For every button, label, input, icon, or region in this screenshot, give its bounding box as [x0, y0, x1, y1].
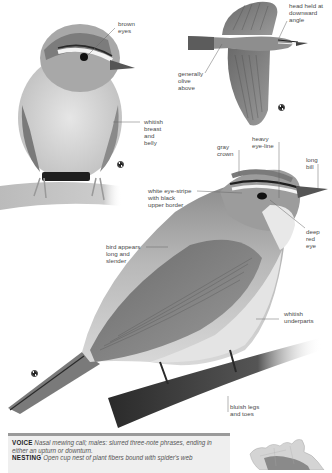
range-map [246, 436, 326, 470]
voice-heading: VOICE [12, 439, 33, 446]
flight-symbol-icon [278, 104, 285, 111]
nesting-text: Open cup nest of plant fibers bound with… [43, 454, 192, 461]
label-head-held-at-downward-angle: head held at downward angle [289, 2, 323, 23]
label-whitish-breast-and-belly: whitish breast and belly [144, 118, 163, 146]
label-deep-red-eye: deep red eye [306, 228, 320, 249]
label-generally-olive-above: generally olive above [178, 70, 203, 91]
adult-symbol-icon [31, 370, 38, 377]
label-bluish-legs-and-toes: bluish legs and toes [230, 403, 259, 417]
label-long-bill: long bill [306, 156, 318, 170]
voice-text: Nasal mewing call; males: slurred three-… [12, 439, 212, 454]
label-whitish-underparts: whitish underparts [284, 310, 314, 324]
label-white-eye-stripe: white eye-stripe with black upper border [148, 187, 191, 208]
nesting-entry: NESTING Open cup nest of plant fibers bo… [12, 454, 226, 462]
voice-entry: VOICE Nasal mewing call; males: slurred … [12, 439, 226, 454]
juvenile-symbol-icon [117, 161, 124, 168]
species-info-box: VOICE Nasal mewing call; males: slurred … [8, 433, 230, 473]
nesting-heading: NESTING [12, 454, 41, 461]
perched-side-bird [8, 170, 328, 428]
label-gray-crown: gray crown [217, 143, 234, 157]
perched-front-bird [0, 24, 135, 210]
label-heavy-eye-line: heavy eye-line [252, 135, 274, 149]
label-bird-appears-long-and-slender: bird appears long and slender [106, 243, 140, 264]
label-brown-eyes: brown eyes [118, 20, 135, 34]
